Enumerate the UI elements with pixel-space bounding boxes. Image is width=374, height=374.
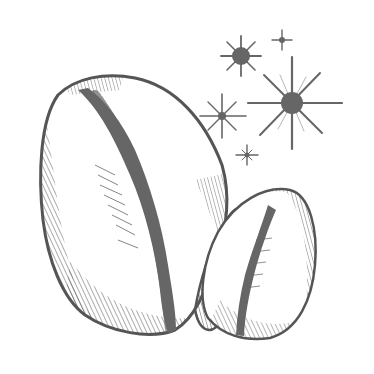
cowrie-illustration — [0, 0, 374, 374]
sparkles — [200, 30, 342, 165]
sparkle-medium — [221, 36, 261, 76]
sparkle-tiny — [272, 30, 292, 50]
sparkle-tiny-2 — [236, 145, 258, 165]
illustration-canvas: Cowrie shells with sparkles illustration — [0, 0, 374, 374]
sparkle-large — [248, 57, 342, 149]
